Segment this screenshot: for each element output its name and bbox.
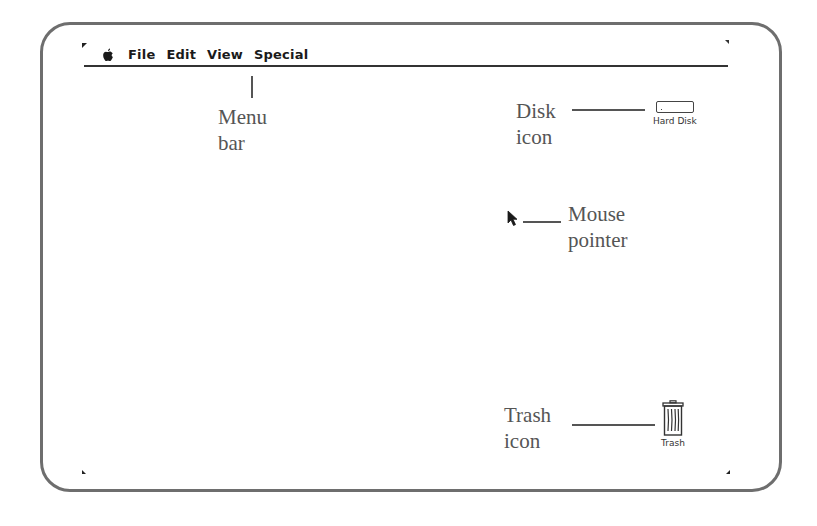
menu-bar-callout: Menu bar [218, 104, 267, 156]
menu-special[interactable]: Special [254, 47, 308, 62]
menu-view[interactable]: View [207, 47, 243, 62]
hard-disk-icon-container[interactable]: Hard Disk [653, 101, 697, 126]
menu-bar-callout-line1: Menu [218, 104, 267, 130]
menu-edit[interactable]: Edit [166, 47, 196, 62]
trash-icon-leader-line [572, 424, 655, 426]
hard-disk-icon[interactable] [656, 101, 694, 113]
trash-icon-callout-line2: icon [504, 428, 551, 454]
mouse-pointer-callout: Mouse pointer [568, 201, 627, 253]
screen-corner-top-right [725, 40, 729, 44]
trash-label[interactable]: Trash [661, 438, 685, 448]
disk-icon-callout-line2: icon [516, 124, 556, 150]
menu-bar-leader-line [251, 76, 253, 98]
trash-icon-callout: Trash icon [504, 402, 551, 454]
apple-icon[interactable] [102, 47, 114, 61]
mouse-pointer-callout-line2: pointer [568, 227, 627, 253]
screen-corner-top-left [82, 43, 87, 48]
menu-file[interactable]: File [128, 47, 155, 62]
trash-icon-container[interactable]: Trash [661, 400, 685, 448]
mouse-pointer-callout-line1: Mouse [568, 201, 627, 227]
trash-icon[interactable] [661, 400, 685, 436]
screen-corner-bottom-left [82, 470, 86, 474]
disk-icon-callout: Disk icon [516, 98, 556, 150]
hard-disk-label[interactable]: Hard Disk [653, 116, 697, 126]
menu-bar-divider [84, 65, 728, 67]
mouse-pointer-icon [507, 210, 519, 232]
menu-bar: File Edit View Special [100, 44, 319, 64]
mouse-pointer-leader-line [523, 221, 561, 223]
menu-bar-callout-line2: bar [218, 130, 267, 156]
trash-icon-callout-line1: Trash [504, 402, 551, 428]
screen-corner-bottom-right [726, 470, 730, 474]
disk-icon-leader-line [572, 109, 645, 111]
disk-icon-callout-line1: Disk [516, 98, 556, 124]
